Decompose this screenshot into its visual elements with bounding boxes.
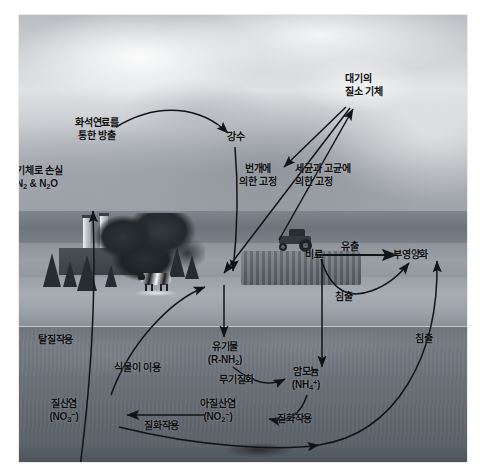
- label-nitrification-left: 질화작용: [144, 420, 179, 433]
- cow-leg: [166, 284, 168, 291]
- farm-tractor: [277, 229, 315, 251]
- label-nitrate: 질산염 (NO3−): [33, 398, 95, 424]
- label-nitrite-formula: (NO2−): [187, 411, 249, 425]
- conifer-tree: [169, 247, 185, 277]
- label-mineralization: 무기질화: [219, 374, 254, 387]
- label-gas-loss: 기체로 손실 N2 & N2O: [19, 165, 112, 191]
- conifer-tree: [63, 261, 77, 287]
- label-nitrate-formula: (NO3−): [33, 411, 95, 425]
- dairy-cow: [141, 273, 171, 292]
- label-gas-loss-formula: N2 & N2O: [19, 178, 112, 192]
- conifer-tree: [43, 253, 61, 287]
- label-fossil-fuel-emission: 화석연료를 통한 방출: [55, 117, 139, 142]
- label-ammonium-formula: (NH4+): [275, 379, 337, 393]
- smokestack-left: [83, 215, 91, 251]
- label-atmospheric-nitrogen: 대기의 질소 기체: [345, 73, 383, 98]
- label-runoff: 유출: [341, 241, 359, 254]
- label-precipitation: 강수: [227, 131, 245, 144]
- label-fertilizer: 비료: [305, 249, 323, 262]
- cow-leg: [145, 284, 147, 291]
- label-plant-uptake: 식물이 이용: [114, 362, 161, 375]
- cow-leg: [160, 284, 162, 291]
- label-organic-matter-formula: (R-NH2): [191, 354, 259, 368]
- label-denitrification: 탈질작용: [38, 334, 73, 347]
- conifer-tree: [185, 255, 199, 279]
- label-nitrification-right: 질화작용: [277, 413, 312, 426]
- hay-bale-row: [241, 251, 361, 285]
- label-organic-matter: 유기물 (R-NH2): [191, 341, 259, 367]
- cow-leg: [151, 284, 153, 291]
- label-leaching-right: 침출: [415, 333, 433, 346]
- soil-dark-patch: [214, 443, 304, 457]
- label-eutrophication: 부영양화: [393, 249, 428, 262]
- nitrogen-cycle-photograph: 화석연료를 통한 방출 기체로 손실 N2 & N2O 강수 번개에 의한 고정…: [19, 15, 467, 462]
- label-lightning-fixation: 번개에 의한 고정: [221, 163, 295, 188]
- label-nitrite: 아질산염 (NO2−): [187, 398, 249, 424]
- cow-head: [138, 274, 145, 280]
- conifer-tree: [105, 265, 117, 287]
- tractor-front-wheel: [279, 243, 287, 251]
- conifer-tree: [77, 255, 97, 291]
- figure-canvas: 화석연료를 통한 방출 기체로 손실 N2 & N2O 강수 번개에 의한 고정…: [0, 0, 480, 476]
- label-bacteria-archaea-fixation: 세균과 고균에 의한 고정: [295, 163, 350, 188]
- label-ammonium: 암모늄 (NH4+): [275, 366, 337, 392]
- label-leaching-upper: 침출: [335, 291, 353, 304]
